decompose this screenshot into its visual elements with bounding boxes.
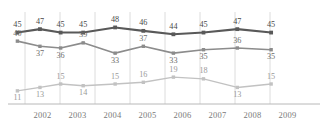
data-point-marker — [81, 41, 84, 44]
data-point-marker — [269, 31, 273, 35]
data-point-marker — [202, 48, 205, 51]
data-point-marker — [172, 32, 176, 36]
x-axis-tick-2003: 2003 — [68, 110, 86, 120]
data-point-label: 37 — [139, 34, 147, 43]
x-axis-tick-2006: 2006 — [173, 110, 191, 120]
data-point-label: 45 — [79, 20, 87, 29]
data-point-marker — [38, 45, 41, 48]
x-axis-tick-2008: 2008 — [243, 110, 261, 120]
data-point-label: 33 — [169, 56, 177, 65]
line-series-light — [17, 77, 271, 91]
data-point-label: 35 — [199, 52, 207, 61]
data-point-marker — [16, 89, 19, 92]
data-point-marker — [236, 86, 239, 89]
data-point-label: 45 — [199, 20, 207, 29]
data-point-label: 14 — [79, 88, 87, 97]
data-point-marker — [59, 46, 62, 49]
data-point-label: 45 — [57, 20, 65, 29]
data-point-label: 33 — [111, 56, 119, 65]
data-point-label: 19 — [169, 65, 177, 74]
x-axis-tick-2004: 2004 — [103, 110, 121, 120]
data-point-marker — [59, 31, 63, 35]
x-axis-tick-2009: 2009 — [278, 110, 296, 120]
data-point-label: 35 — [267, 52, 275, 61]
data-point-marker — [172, 51, 175, 54]
data-point-label: 36 — [233, 36, 241, 45]
data-point-label: 47 — [233, 17, 241, 26]
data-point-label: 44 — [169, 22, 177, 31]
data-point-label: 45 — [267, 20, 275, 29]
data-point-marker — [142, 81, 145, 84]
x-axis-tick-2007: 2007 — [208, 110, 226, 120]
data-point-label: 47 — [36, 17, 44, 26]
data-point-marker — [202, 77, 205, 80]
data-point-label: 39 — [79, 30, 87, 39]
data-point-marker — [236, 46, 239, 49]
data-point-marker — [113, 51, 116, 54]
data-point-label: 37 — [36, 49, 44, 58]
chart-canvas — [0, 0, 325, 128]
data-point-marker — [172, 75, 175, 78]
line-chart: 4547454548464445474540373639333733353635… — [0, 0, 325, 128]
data-point-label: 36 — [57, 51, 65, 60]
x-axis-tick-2002: 2002 — [33, 110, 51, 120]
data-point-marker — [202, 31, 206, 35]
data-point-label: 46 — [139, 18, 147, 27]
data-point-label: 13 — [36, 90, 44, 99]
data-point-marker — [113, 82, 116, 85]
data-point-marker — [142, 45, 145, 48]
data-point-label: 15 — [57, 72, 65, 81]
data-point-marker — [16, 39, 19, 42]
x-axis-tick-2005: 2005 — [138, 110, 156, 120]
data-point-label: 48 — [111, 15, 119, 24]
data-point-marker — [235, 27, 239, 31]
data-point-marker — [269, 48, 272, 51]
data-point-label: 16 — [139, 70, 147, 79]
data-point-marker — [38, 27, 42, 31]
data-point-label: 18 — [199, 66, 207, 75]
data-point-marker — [81, 84, 84, 87]
data-point-marker — [59, 82, 62, 85]
data-point-label: 15 — [267, 72, 275, 81]
data-point-label: 15 — [111, 72, 119, 81]
data-point-marker — [38, 86, 41, 89]
data-point-label: 11 — [13, 93, 21, 102]
data-point-marker — [141, 29, 145, 33]
data-point-label: 13 — [233, 90, 241, 99]
data-point-marker — [113, 26, 117, 30]
data-point-marker — [269, 82, 272, 85]
data-point-label: 40 — [13, 29, 21, 38]
